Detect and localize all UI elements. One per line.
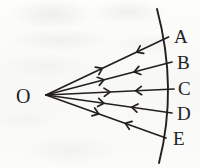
- ray-diagram-figure: O A B C D E: [0, 0, 200, 168]
- arc-point-label-a: A: [174, 27, 188, 46]
- arc-point-label-e: E: [173, 129, 185, 148]
- arc-point-label-c: C: [178, 79, 191, 98]
- ray-A: [46, 37, 169, 95]
- ray-E: [46, 95, 166, 138]
- rays-group: [46, 37, 174, 138]
- arc-point-label-b: B: [177, 53, 190, 72]
- wavefront-arc: [157, 9, 168, 163]
- ray-D: [46, 95, 172, 113]
- arc-point-label-d: D: [177, 104, 191, 123]
- source-point-label: O: [16, 86, 30, 106]
- diagram-canvas: [0, 0, 200, 168]
